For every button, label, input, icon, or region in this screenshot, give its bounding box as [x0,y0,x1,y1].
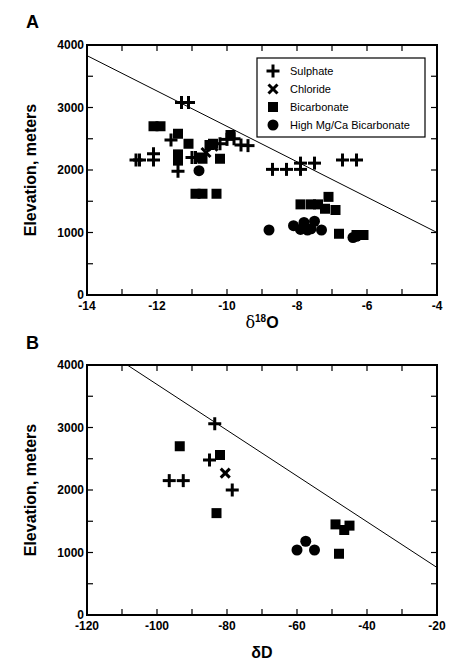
square-marker [173,129,183,139]
square-marker [296,199,306,209]
square-marker [212,189,222,199]
panel-b-plot: -120-100-80-60-40-20 01000200030004000 E… [22,358,446,661]
plus-marker [266,163,279,176]
legend-label: Sulphate [290,65,333,77]
square-marker [208,139,218,149]
y-tick-label: 2000 [57,483,84,497]
square-marker [226,130,236,140]
square-marker [331,205,341,215]
plus-marker [294,157,307,170]
series-bicarbonate [149,121,369,240]
legend: SulphateChlorideBicarbonateHigh Mg/Ca Bi… [257,58,425,137]
square-icon [268,102,278,112]
y-tick-label: 3000 [57,101,84,115]
plus-marker [177,474,190,487]
plus-marker [336,154,349,167]
circle-marker [264,225,275,236]
plus-marker [163,474,176,487]
x-tick-label: -10 [218,299,236,313]
square-marker [184,139,194,149]
panel-b-regression-line [127,365,437,568]
y-tick-label: 2000 [57,163,84,177]
plus-marker [280,163,293,176]
square-marker [345,521,355,531]
x-tick-label: -4 [432,299,443,313]
circle-marker [194,165,205,176]
x-tick-label: -20 [428,619,446,633]
circle-marker [292,545,303,556]
x-tick-label: -100 [145,619,169,633]
square-marker [320,204,330,214]
series-high-mg-ca-bicarbonate [292,536,321,556]
plus-marker [203,454,216,467]
x-tick-label: -80 [218,619,236,633]
panel-a-x-axis-title: δ18O [245,313,278,332]
x-tick-label: -6 [362,299,373,313]
square-marker [175,441,185,451]
series-bicarbonate [175,441,355,559]
square-marker [215,450,225,460]
panel-b-y-tick-labels: 01000200030004000 [57,358,84,622]
square-marker [198,154,208,164]
circle-marker [300,536,311,547]
plus-marker [350,154,363,167]
square-marker [334,229,344,239]
legend-label: Bicarbonate [290,101,349,113]
square-marker [324,192,334,202]
y-tick-label: 4000 [57,38,84,52]
square-marker [331,519,341,529]
y-tick-label: 1000 [57,546,84,560]
plus-marker [172,165,185,178]
legend-label: Chloride [290,83,331,95]
panel-b-frame [87,365,437,615]
y-tick-label: 0 [77,608,84,622]
circle-icon [268,120,279,131]
panel-b-points [163,417,355,559]
legend-label: High Mg/Ca Bicarbonate [290,119,410,131]
x-tick-label: -8 [292,299,303,313]
circle-marker [309,216,320,227]
plus-marker [226,484,239,497]
plus-marker [147,147,160,160]
square-marker [215,154,225,164]
y-tick-label: 0 [77,288,84,302]
panel-b-x-tick-labels: -120-100-80-60-40-20 [75,619,446,633]
plus-marker [182,96,195,109]
circle-marker [316,225,327,236]
panel-a-plot: -14-12-10-8-6-4 01000200030004000 Elevat… [22,38,443,332]
circle-marker [302,225,313,236]
y-tick-label: 3000 [57,421,84,435]
plus-marker [308,157,321,170]
y-tick-label: 1000 [57,226,84,240]
x-marker [221,469,230,478]
square-marker [334,549,344,559]
plus-marker [242,139,255,152]
square-marker [212,508,222,518]
series-sulphate [163,417,239,496]
panel-a-x-tick-labels: -14-12-10-8-6-4 [78,299,442,313]
circle-marker [351,231,362,242]
x-tick-label: -60 [288,619,306,633]
x-tick-label: -40 [358,619,376,633]
y-tick-label: 4000 [57,358,84,372]
panel-a-y-axis-title: Elevation, meters [22,104,39,237]
panel-b-y-axis-title: Elevation, meters [22,424,39,557]
chart-canvas: -14-12-10-8-6-4 01000200030004000 Elevat… [0,0,469,665]
panel-b-ticks [87,365,437,615]
circle-marker [309,545,320,556]
panel-a-y-tick-labels: 01000200030004000 [57,38,84,302]
square-marker [173,156,183,166]
square-marker [198,189,208,199]
panel-b-x-axis-title: δD [251,644,272,661]
square-marker [156,121,166,131]
x-tick-label: -12 [148,299,166,313]
series-chloride [221,469,230,478]
